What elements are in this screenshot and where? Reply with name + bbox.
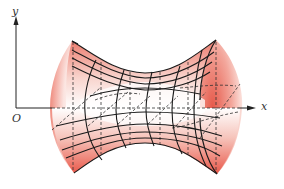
surface-of-revolution-figure: y x O <box>0 0 284 189</box>
y-axis-label: y <box>12 6 18 17</box>
x-axis-arrow-icon <box>247 106 256 111</box>
figure-canvas <box>0 0 284 189</box>
x-axis-label: x <box>261 101 267 112</box>
origin-label: O <box>12 113 21 124</box>
